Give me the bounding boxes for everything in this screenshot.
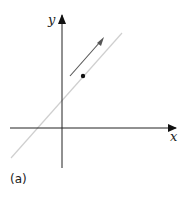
point — [81, 74, 85, 78]
y-axis-arrowhead-icon — [58, 14, 66, 24]
diagonal-line — [11, 33, 122, 158]
direction-arrow — [70, 42, 100, 76]
x-axis-label: x — [170, 129, 178, 144]
y-axis-label: y — [47, 12, 56, 27]
diagram-canvas: y x — [0, 0, 187, 201]
figure-caption: (a) — [10, 172, 27, 186]
